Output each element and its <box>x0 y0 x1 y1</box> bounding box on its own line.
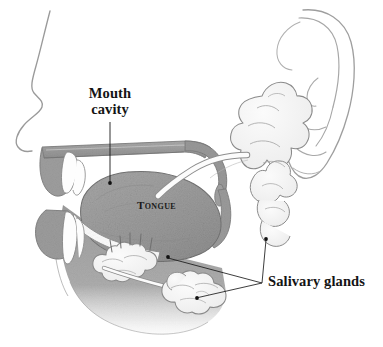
leader-dot-parotid <box>264 237 268 241</box>
anatomy-illustration <box>0 0 383 347</box>
parotid-gland <box>231 82 313 246</box>
leader-dot-submandibular <box>195 296 199 300</box>
face-profile-icon <box>16 11 50 151</box>
upper-teeth <box>62 152 86 195</box>
label-tongue: Tongue <box>137 200 176 212</box>
label-salivary-glands: Salivary glands <box>268 274 365 290</box>
label-mouth-cavity: Mouth cavity <box>72 86 148 117</box>
anatomy-figure: Mouth cavity Salivary glands Tongue <box>0 0 383 347</box>
leader-dot-sublingual <box>166 255 170 259</box>
